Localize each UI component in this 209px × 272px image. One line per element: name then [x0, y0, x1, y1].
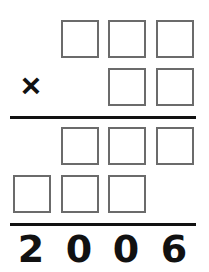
- partial-product-1-box-3[interactable]: [156, 127, 194, 165]
- partial-product-2-box-3[interactable]: [108, 175, 146, 213]
- divider-line-bottom: [10, 223, 196, 226]
- partial-product-2-box-1[interactable]: [13, 175, 51, 213]
- result-digit-4: 6: [155, 230, 193, 268]
- multiplicand-box-1[interactable]: [61, 20, 99, 58]
- multiply-sign: ×: [18, 70, 44, 100]
- partial-product-1-box-2[interactable]: [108, 127, 146, 165]
- result-digit-2: 0: [60, 230, 98, 268]
- partial-product-2-box-2[interactable]: [61, 175, 99, 213]
- result-digit-1: 2: [12, 230, 50, 268]
- multiplicand-box-3[interactable]: [156, 20, 194, 58]
- result-digit-3: 0: [107, 230, 145, 268]
- partial-product-1-box-1[interactable]: [61, 127, 99, 165]
- divider-line-top: [10, 116, 196, 119]
- multiplier-box-2[interactable]: [156, 68, 194, 106]
- multiplicand-box-2[interactable]: [108, 20, 146, 58]
- multiplier-box-1[interactable]: [108, 68, 146, 106]
